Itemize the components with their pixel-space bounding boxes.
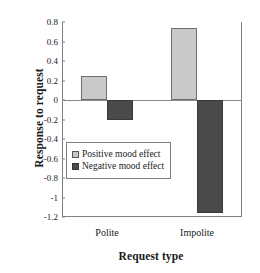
y-tick-mark: [62, 119, 65, 120]
y-tick-mark: [62, 217, 65, 218]
y-tick-mark: [62, 80, 65, 81]
y-tick-mark: [62, 158, 65, 159]
x-tick-label: Impolite: [180, 227, 214, 238]
y-tick-label: -0.2: [18, 115, 58, 125]
bar-polite-positive: [81, 76, 107, 100]
y-tick-mark: [62, 178, 65, 179]
legend-label-positive: Positive mood effect: [82, 150, 160, 160]
x-axis-title: Request type: [56, 250, 246, 262]
legend-swatch-negative-icon: [72, 163, 79, 170]
y-tick-label: -0.8: [18, 173, 58, 183]
y-tick-mark: [62, 61, 65, 62]
legend-item: Positive mood effect: [72, 150, 164, 160]
y-tick-label: -1: [18, 193, 58, 203]
bar-chart-figure: Response to request 0.80.60.40.20-0.2-0.…: [0, 0, 260, 273]
y-tick-label: -0.4: [18, 134, 58, 144]
chart-legend: Positive mood effect Negative mood effec…: [66, 142, 171, 179]
y-tick-label: -0.6: [18, 154, 58, 164]
y-tick-label: 0.6: [18, 37, 58, 47]
y-tick-mark: [62, 197, 65, 198]
y-tick-label: 0.8: [18, 17, 58, 27]
legend-item: Negative mood effect: [72, 162, 164, 172]
y-tick-mark: [62, 22, 65, 23]
x-tick-label: Polite: [95, 227, 118, 238]
y-tick-mark: [62, 100, 65, 101]
y-tick-label: -1.2: [18, 212, 58, 222]
legend-label-negative: Negative mood effect: [82, 162, 164, 172]
y-tick-label: 0: [18, 95, 58, 105]
y-tick-mark: [62, 139, 65, 140]
plot-area: 0.80.60.40.20-0.2-0.4-0.6-0.8-1-1.2 Poli…: [62, 22, 242, 217]
y-tick-label: 0.2: [18, 76, 58, 86]
bar-impolite-negative: [197, 100, 223, 213]
bar-impolite-positive: [171, 28, 197, 100]
legend-swatch-positive-icon: [72, 151, 79, 158]
y-tick-mark: [62, 41, 65, 42]
bar-polite-negative: [107, 100, 133, 120]
y-tick-label: 0.4: [18, 56, 58, 66]
